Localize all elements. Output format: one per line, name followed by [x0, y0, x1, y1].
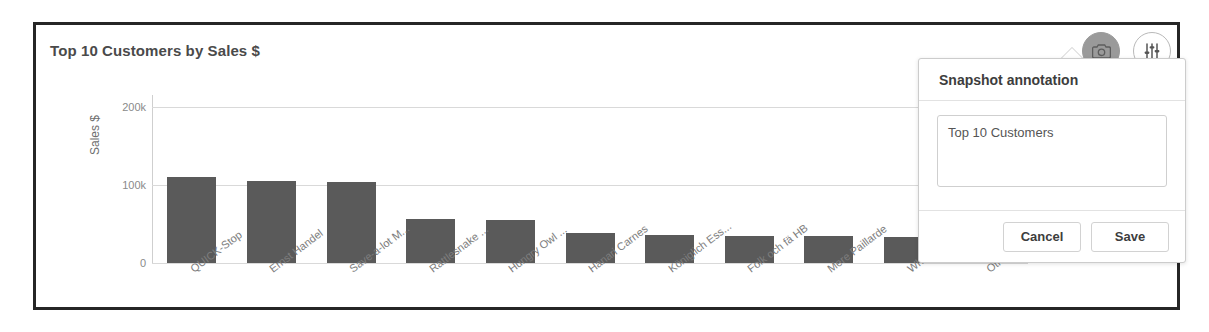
popup-header: Snapshot annotation [919, 59, 1185, 101]
annotation-input[interactable] [937, 115, 1167, 187]
snapshot-annotation-popup: Snapshot annotation Cancel Save [918, 58, 1186, 263]
plot-area [152, 95, 1028, 263]
popup-footer: Cancel Save [919, 210, 1185, 262]
y-tick-label: 100k [100, 179, 146, 191]
popup-body [919, 101, 1185, 191]
y-axis-line [152, 95, 153, 264]
save-button[interactable]: Save [1091, 222, 1169, 252]
page-title: Top 10 Customers by Sales $ [50, 42, 260, 59]
x-axis-labels: QUICK-StopErnst HandelSave-a-lot M...Rat… [152, 265, 1028, 310]
cancel-button[interactable]: Cancel [1003, 222, 1081, 252]
y-axis-ticks: 0100k200k [98, 95, 146, 264]
y-tick-label: 0 [100, 257, 146, 269]
popup-title: Snapshot annotation [939, 72, 1078, 88]
gridline [152, 107, 1028, 108]
y-tick-label: 200k [100, 101, 146, 113]
camera-icon [1092, 43, 1111, 59]
